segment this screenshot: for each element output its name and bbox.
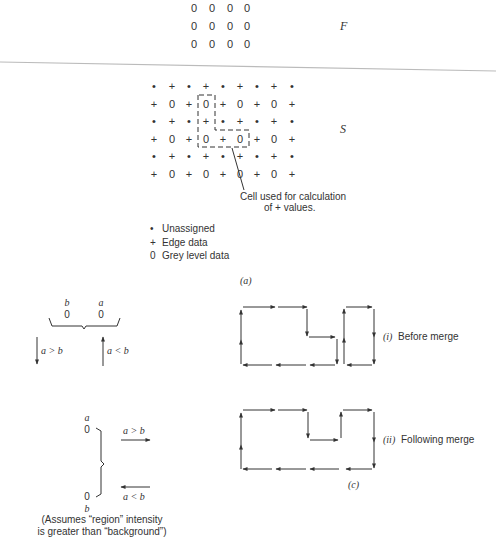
s-cell: • — [152, 150, 156, 162]
f-cell: 0 — [227, 20, 233, 32]
callout-line-2: of + values. — [264, 202, 315, 213]
region-merge-diagram: 0 0 0 0 0 0 0 0 0 0 0 0 F • + • + • + • … — [0, 0, 496, 540]
s-cell: 0 — [203, 133, 209, 145]
s-cell: + — [289, 98, 295, 110]
after-numeral: (ii) — [383, 434, 396, 446]
s-cell: + — [151, 98, 157, 110]
b-label-upper: a — [85, 412, 90, 423]
s-cell: + — [254, 133, 260, 145]
s-cell: 0 — [271, 168, 277, 180]
b-label-lower: b — [85, 503, 90, 514]
s-cell: 0 — [237, 133, 243, 145]
s-cell: + — [271, 80, 277, 92]
s-cell: + — [203, 115, 209, 127]
f-cell: 0 — [244, 2, 250, 14]
matrix-s-label: S — [340, 122, 346, 136]
s-cell: 0 — [169, 133, 175, 145]
f-cell: 0 — [191, 2, 197, 14]
s-cell: + — [271, 115, 277, 127]
s-cell: • — [255, 80, 259, 92]
b-zero-lower: 0 — [84, 491, 90, 502]
s-cell: • — [152, 80, 156, 92]
s-cell: 0 — [203, 168, 209, 180]
brace-vertical — [96, 428, 104, 497]
s-cell: • — [221, 80, 225, 92]
s-cell: + — [203, 150, 209, 162]
f-cell: 0 — [244, 20, 250, 32]
s-cell: • — [255, 150, 259, 162]
f-cell: 0 — [244, 38, 250, 50]
note-line-2: is greater than “background”) — [38, 526, 167, 537]
s-cell: • — [290, 115, 294, 127]
s-cell: + — [220, 133, 226, 145]
s-cell: + — [254, 168, 260, 180]
left-arrow-label: a < b — [123, 491, 145, 502]
s-cell: 0 — [271, 98, 277, 110]
brace-horizontal — [49, 318, 120, 329]
s-cell: • — [255, 115, 259, 127]
part-b-horizontal: b 0 a 0 a > b a < b — [37, 297, 129, 366]
s-cell: • — [290, 150, 294, 162]
b-zero-upper: 0 — [84, 424, 90, 435]
f-cell: 0 — [209, 2, 215, 14]
s-cell: + — [237, 115, 243, 127]
s-cell: • — [221, 150, 225, 162]
f-cell: 0 — [191, 38, 197, 50]
b-label-top-right: a — [99, 297, 104, 308]
s-cell: + — [289, 133, 295, 145]
legend-symbol-unassigned: • — [150, 223, 154, 234]
f-cell: 0 — [191, 20, 197, 32]
s-cell: 0 — [237, 98, 243, 110]
s-cell: + — [186, 168, 192, 180]
s-cell: + — [271, 150, 277, 162]
s-cell: + — [151, 168, 157, 180]
b-zero-top-right: 0 — [98, 309, 104, 320]
f-cell: 0 — [209, 38, 215, 50]
s-cell: + — [220, 98, 226, 110]
legend: • Unassigned + Edge data 0 Grey level da… — [150, 223, 230, 261]
separator-line — [0, 62, 496, 71]
s-cell: • — [290, 80, 294, 92]
legend-label-unassigned: Unassigned — [162, 223, 215, 234]
note-line-1: (Assumes “region” intensity — [41, 514, 162, 525]
after-label: Following merge — [401, 434, 475, 445]
s-cell: + — [186, 98, 192, 110]
caption-a: (a) — [240, 275, 252, 287]
chain-following-merge — [241, 410, 374, 469]
s-cell: + — [186, 133, 192, 145]
matrix-f: 0 0 0 0 0 0 0 0 0 0 0 0 — [191, 2, 250, 50]
chain-before-merge — [241, 307, 374, 365]
s-cell: 0 — [169, 168, 175, 180]
legend-symbol-edge: + — [150, 237, 156, 248]
s-cell: + — [237, 150, 243, 162]
s-cell: 0 — [271, 133, 277, 145]
s-cell: + — [151, 133, 157, 145]
s-cell: + — [169, 150, 175, 162]
legend-symbol-grey: 0 — [150, 250, 156, 261]
part-b-vertical: a 0 0 b a > b a < b — [84, 412, 150, 514]
s-cell: + — [169, 80, 175, 92]
caption-c: (c) — [348, 479, 360, 491]
s-cell: + — [203, 80, 209, 92]
s-cell: • — [152, 115, 156, 127]
s-cell: • — [187, 150, 191, 162]
down-arrow-label: a > b — [41, 345, 63, 356]
s-cell: • — [187, 80, 191, 92]
f-cell: 0 — [227, 2, 233, 14]
b-label-top-left: b — [65, 297, 70, 308]
before-numeral: (i) — [383, 331, 393, 343]
before-label: Before merge — [398, 331, 459, 342]
s-cell: + — [169, 115, 175, 127]
s-cell: + — [289, 168, 295, 180]
legend-label-edge: Edge data — [162, 237, 208, 248]
right-arrow-label: a > b — [123, 425, 145, 436]
b-zero-top-left: 0 — [64, 309, 70, 320]
s-cell: + — [254, 98, 260, 110]
s-cell: 0 — [203, 98, 209, 110]
up-arrow-label: a < b — [107, 345, 129, 356]
s-cell: • — [187, 115, 191, 127]
matrix-f-label: F — [339, 19, 348, 33]
s-cell: • — [221, 115, 225, 127]
f-cell: 0 — [209, 20, 215, 32]
legend-label-grey: Grey level data — [162, 250, 230, 261]
